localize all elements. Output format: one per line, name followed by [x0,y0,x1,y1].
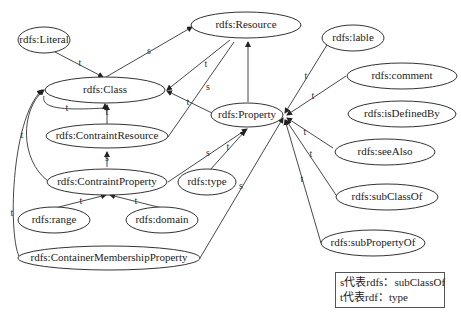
edge-label: s [239,180,243,191]
svg-text:rdfs:ContainerMembershipProper: rdfs:ContainerMembershipProperty [30,251,188,263]
node-sub-class-of: rdfs:subClassOf [336,184,438,210]
node-lable: rdfs:lable [322,25,384,51]
node-property: rdfs:Property [211,103,283,127]
edge-label: t [301,173,304,184]
edge-label: t [106,106,109,117]
edge-label: t [205,58,208,69]
edge-resource-class [167,40,230,90]
svg-text:rdfs:domain: rdfs:domain [135,213,189,225]
edge-label: t [11,207,14,218]
edge-label: t [305,70,308,81]
svg-text:rdfs:Literal: rdfs:Literal [19,33,68,45]
edge-label: t [227,141,230,152]
node-sub-property-of: rdfs:subPropertyOf [321,230,425,256]
node-comment: rdfs:comment [347,63,457,89]
rdf-schema-diagram: t s t s t t t s t s t t t t s t t t t t … [0,0,461,317]
node-type: rdfs:type [178,169,236,195]
edge-contraintproperty-class [26,90,48,181]
edge-property-class [167,91,212,113]
svg-text:rdfs:Class: rdfs:Class [83,83,127,95]
legend-line-s: s代表rdfs：subClassOf [340,275,440,290]
node-domain: rdfs:domain [126,207,198,233]
legend-line-t: t代表rdf：type [340,290,440,305]
edge-label: t [79,57,82,68]
edge-label: t [80,195,83,206]
edge-label: t [135,195,138,206]
node-resource: rdfs:Resource [191,12,301,38]
edge-lable-property [285,40,330,113]
svg-text:rdfs:comment: rdfs:comment [371,69,432,81]
svg-text:rdfs:Property: rdfs:Property [218,108,277,120]
edge-label: t [66,102,69,113]
svg-text:rdfs:subClassOf: rdfs:subClassOf [352,190,423,202]
svg-text:rdfs:subPropertyOf: rdfs:subPropertyOf [331,236,416,248]
edge-label: t [187,96,190,107]
node-is-defined-by: rdfs:isDefinedBy [348,101,456,127]
edge-label: t [304,126,307,137]
svg-text:rdfs:range: rdfs:range [32,213,77,225]
svg-text:rdfs:lable: rdfs:lable [332,31,374,43]
edge-label: s [206,81,210,92]
node-literal: rdfs:Literal [18,27,70,53]
svg-text:rdfs:seeAlso: rdfs:seeAlso [358,145,413,157]
node-range: rdfs:range [18,207,90,233]
node-contraint-property: rdfs:ContraintProperty [47,169,167,195]
svg-text:rdfs:Resource: rdfs:Resource [215,18,276,30]
svg-text:rdfs:ContraintResource: rdfs:ContraintResource [56,129,159,141]
node-contraint-resource: rdfs:ContraintResource [46,124,168,148]
edge-label: s [105,152,109,163]
edge-label: t [310,148,313,159]
node-container-membership-property: rdfs:ContainerMembershipProperty [18,246,200,270]
edge-containermembership-class [13,90,42,258]
node-see-also: rdfs:seeAlso [335,139,435,165]
edge-label: t [312,90,315,101]
svg-text:rdfs:type: rdfs:type [187,175,226,187]
edge-label: s [147,45,151,56]
edge-label: s [206,147,210,158]
legend-box: s代表rdfs：subClassOf t代表rdf：type [335,272,445,308]
svg-text:rdfs:isDefinedBy: rdfs:isDefinedBy [364,107,440,119]
node-class: rdfs:Class [45,77,165,103]
svg-text:rdfs:ContraintProperty: rdfs:ContraintProperty [57,175,157,187]
edge-seealso-property [287,118,333,148]
edge-label: t [21,129,24,140]
